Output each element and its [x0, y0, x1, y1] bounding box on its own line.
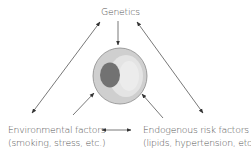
cell-icon: [93, 48, 147, 104]
node-genetics: Genetics: [101, 5, 140, 18]
arrow-endogenous-to-cell: [142, 94, 163, 118]
node-endogenous-title: Endogenous risk factors: [143, 123, 249, 136]
nucleus-icon: [100, 63, 120, 88]
arrow-genetics-environmental: [32, 22, 100, 113]
node-environmental-title: Environmental factors: [8, 123, 105, 136]
arrow-environmental-to-cell: [73, 93, 94, 115]
node-environmental-subtitle: (smoking, stress, etc.): [8, 136, 105, 149]
node-endogenous-subtitle: (lipids, hypertension, etc.): [143, 136, 251, 149]
